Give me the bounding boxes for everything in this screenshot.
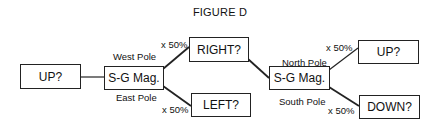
node-sg-magnet-2: S-G Mag. [269, 66, 330, 90]
label-south-pole: South Pole [279, 96, 325, 107]
label-north-pole: North Pole [282, 57, 327, 68]
node-down: DOWN? [359, 95, 420, 119]
label-west-pole: West Pole [113, 51, 156, 62]
node-left: LEFT? [191, 93, 251, 117]
label-down-percent: x 50% [328, 105, 354, 116]
node-up: UP? [358, 40, 419, 64]
label-left-percent: x 50% [162, 104, 188, 115]
label-east-pole: East Pole [116, 92, 157, 103]
node-sg-magnet-1: S-G Mag. [104, 66, 164, 90]
node-up-start: UP? [20, 64, 81, 89]
node-right: RIGHT? [189, 37, 249, 62]
label-right-percent: x 50% [161, 39, 187, 50]
label-up-percent: x 50% [326, 42, 352, 53]
